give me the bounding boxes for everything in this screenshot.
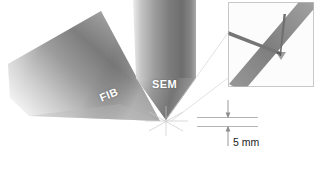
inset-panel [228,0,318,92]
scale-value-label: 5 mm [233,136,259,148]
figure-root: FIB SEM 5 mm [0,0,318,170]
figure-canvas [0,0,318,170]
